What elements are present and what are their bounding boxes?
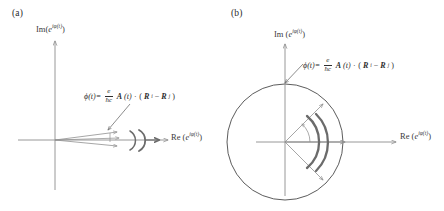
formula-vector-a-arg: (t) xyxy=(124,92,132,101)
panel-b-angle-arc xyxy=(302,124,310,142)
formula-minus: − xyxy=(374,61,379,70)
formula-open-paren: ( xyxy=(139,92,142,101)
formula-open-paren: ( xyxy=(358,61,361,70)
panel-a-label: (a) xyxy=(12,8,23,18)
formula-vector-a: A xyxy=(117,92,122,101)
panel-b-label: (b) xyxy=(231,8,243,18)
panel-a-leader-line xyxy=(108,104,130,130)
imaginary-suffix: ) xyxy=(62,24,65,34)
imaginary-exponent: iφ(t) xyxy=(292,28,302,34)
formula-dot-operator: · xyxy=(353,61,357,70)
real-suffix: ) xyxy=(199,132,202,142)
formula-vector-r1-subscript: i xyxy=(370,62,372,68)
formula-lhs: ϕ(t)= xyxy=(84,92,101,101)
panel-b-phase-formula: ϕ(t)= e ħc A(t)·(Ri−Rj) xyxy=(303,57,394,73)
figure-svg xyxy=(0,0,444,211)
formula-vector-a-arg: (t) xyxy=(343,61,351,70)
formula-vector-r1: R xyxy=(363,61,368,70)
formula-close-paren: ) xyxy=(172,92,175,101)
formula-vector-r1-subscript: i xyxy=(151,93,153,99)
panel-a-imaginary-axis-label: Im(eiφ(t)) xyxy=(36,23,65,34)
formula-numerator: e xyxy=(325,57,330,65)
real-exponent: iφ(t) xyxy=(189,131,199,137)
panel-a-sweep-arc-inner xyxy=(130,131,135,150)
formula-denominator: ħc xyxy=(324,65,333,74)
panel-b-vector-upper xyxy=(285,104,323,142)
imaginary-prefix: Im ( xyxy=(274,29,288,39)
panel-a-vector-lower xyxy=(55,140,117,146)
formula-denominator: ħc xyxy=(105,96,114,105)
imaginary-suffix: ) xyxy=(302,29,305,39)
formula-numerator: e xyxy=(106,88,111,96)
formula-minus: − xyxy=(155,92,160,101)
formula-vector-a: A xyxy=(336,61,341,70)
panel-a-real-axis-label: Re (eiφ(t)) xyxy=(171,131,202,142)
formula-lhs: ϕ(t)= xyxy=(303,61,320,70)
formula-vector-r2: R xyxy=(161,92,166,101)
formula-dot-operator: · xyxy=(134,92,138,101)
real-exponent: iφ(t) xyxy=(418,130,428,136)
real-prefix: Re ( xyxy=(171,132,185,142)
panel-b-leader-line xyxy=(285,64,303,83)
real-prefix: Re ( xyxy=(400,131,414,141)
formula-vector-r2-subscript: j xyxy=(169,93,171,99)
imaginary-prefix: Im( xyxy=(36,24,48,34)
formula-vector-r2: R xyxy=(380,61,385,70)
formula-fraction: e ħc xyxy=(324,57,333,73)
formula-vector-r2-subscript: j xyxy=(388,62,390,68)
figure-container: (a) (b) Im(eiφ(t)) Re (eiφ(t)) Im (eiφ(t… xyxy=(0,0,444,211)
panel-a-sweep-arc-outer xyxy=(139,130,145,151)
real-suffix: ) xyxy=(428,131,431,141)
panel-b-imaginary-axis-label: Im (eiφ(t)) xyxy=(274,28,305,39)
imaginary-exponent: iφ(t) xyxy=(52,23,62,29)
formula-vector-r1: R xyxy=(144,92,149,101)
panel-b-real-axis-label: Re (eiφ(t)) xyxy=(400,130,431,141)
panel-b-vector-lower xyxy=(285,142,323,180)
formula-close-paren: ) xyxy=(391,61,394,70)
panel-a-phase-formula: ϕ(t)= e ħc A(t)·(Ri−Rj) xyxy=(84,88,175,104)
formula-fraction: e ħc xyxy=(105,88,114,104)
panel-a-graph xyxy=(18,41,168,190)
